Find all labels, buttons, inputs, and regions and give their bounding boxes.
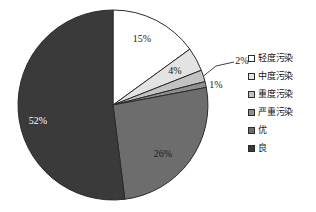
legend-swatch-icon (248, 145, 255, 152)
pie-label-52-percent: 52% (29, 115, 47, 126)
legend-item-label: 良 (258, 144, 267, 153)
pie-label-1-percent: 1% (209, 79, 222, 90)
pie-label-15-percent: 15% (133, 33, 151, 44)
legend-item-中度污染[interactable]: 中度污染 (248, 68, 314, 84)
leader-line-2-percent (204, 62, 235, 76)
chart-legend: 轻度污染 中度污染 重度污染 严重污染 优 良 (248, 50, 314, 156)
legend-item-轻度污染[interactable]: 轻度污染 (248, 50, 314, 66)
legend-item-重度污染[interactable]: 重度污染 (248, 86, 314, 102)
legend-item-label: 严重污染 (258, 108, 293, 117)
legend-item-label: 中度污染 (258, 72, 293, 81)
legend-swatch-icon (248, 91, 255, 98)
legend-item-label: 轻度污染 (258, 54, 293, 63)
legend-item-label: 重度污染 (258, 90, 293, 99)
pie-chart-figure: 15% 4% 2% 1% 26% 52% 轻度污染 中度污染 重度污染 严重污染… (0, 0, 316, 212)
legend-swatch-icon (248, 127, 255, 134)
legend-item-优[interactable]: 优 (248, 122, 314, 138)
pie-slice-良[interactable] (18, 10, 125, 200)
legend-swatch-icon (248, 73, 255, 80)
pie-slice-优[interactable] (113, 87, 208, 199)
legend-item-label: 优 (258, 126, 267, 135)
legend-item-良[interactable]: 良 (248, 140, 314, 156)
pie-slices (18, 10, 208, 200)
legend-item-严重污染[interactable]: 严重污染 (248, 104, 314, 120)
legend-swatch-icon (248, 55, 255, 62)
pie-label-2-percent: 2% (235, 55, 248, 66)
pie-label-4-percent: 4% (168, 65, 181, 76)
legend-swatch-icon (248, 109, 255, 116)
pie-label-26-percent: 26% (154, 148, 172, 159)
